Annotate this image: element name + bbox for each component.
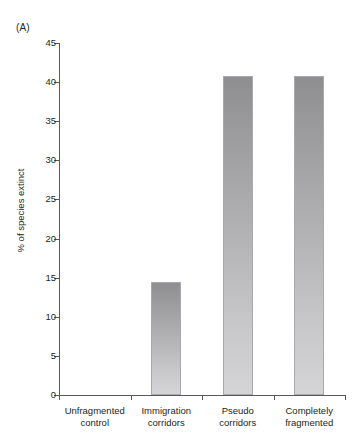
x-category-label-line: Unfragmented	[55, 405, 135, 417]
x-category-label: Completelyfragmented	[270, 405, 350, 429]
y-tick-label: 35	[45, 116, 56, 126]
y-tick-label: 25	[45, 194, 56, 204]
bar	[151, 282, 181, 395]
x-category-label-line: fragmented	[270, 417, 350, 429]
x-tick-mark	[274, 395, 275, 400]
x-category-label-line: control	[55, 417, 135, 429]
x-tick-mark	[59, 395, 60, 400]
x-category-label-line: corridors	[198, 417, 278, 429]
y-tick-label: 5	[51, 351, 56, 361]
y-tick-label: 15	[45, 273, 56, 283]
x-category-label-line: Completely	[270, 405, 350, 417]
y-tick-label: 20	[45, 234, 56, 244]
bar	[294, 76, 324, 395]
x-tick-mark	[131, 395, 132, 400]
x-category-label: Unfragmentedcontrol	[55, 405, 135, 429]
x-tick-mark	[202, 395, 203, 400]
y-tick-label: 30	[45, 155, 56, 165]
panel-label: (A)	[16, 22, 30, 34]
y-tick-label: 45	[45, 38, 56, 48]
x-category-label-line: corridors	[127, 417, 207, 429]
figure-panel-a: (A) % of species extinct 051015202530354…	[0, 0, 363, 448]
y-axis-line	[59, 43, 60, 395]
x-tick-mark	[345, 395, 346, 400]
plot-area: 051015202530354045 UnfragmentedcontrolIm…	[59, 43, 345, 395]
y-tick-label: 40	[45, 77, 56, 87]
y-tick-label: 0	[51, 390, 56, 400]
y-tick-label: 10	[45, 312, 56, 322]
x-category-label-line: Immigration	[127, 405, 207, 417]
x-category-label-line: Pseudo	[198, 405, 278, 417]
x-category-label: Pseudocorridors	[198, 405, 278, 429]
y-axis-title: % of species extinct	[15, 121, 26, 301]
x-category-label: Immigrationcorridors	[127, 405, 207, 429]
bar	[223, 76, 253, 395]
